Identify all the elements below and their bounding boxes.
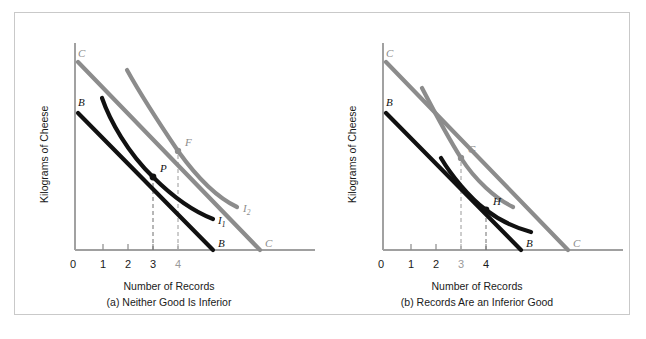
figure-root: F P C B C B I1 I2 0 1 — [0, 0, 646, 339]
x-tick-label-3-b: 3 — [458, 258, 464, 270]
curve-label-C-end-a: C — [265, 237, 273, 249]
panel-b: G H C B C B 0 1 2 3 4 Kilograms of Chees… — [323, 13, 631, 316]
curve-label-C-end-b: C — [573, 237, 581, 249]
x-axis-title-b: Number of Records — [431, 280, 522, 292]
indifference-curve-I2-a — [127, 70, 237, 207]
point-label-G: G — [468, 143, 476, 155]
budget-line-CC-b — [386, 62, 568, 250]
curve-label-C-top-a: C — [78, 47, 86, 59]
panel-a: F P C B C B I1 I2 0 1 — [15, 13, 323, 316]
y-axis-title-b: Kilograms of Cheese — [346, 105, 358, 203]
figure-frame: F P C B C B I1 I2 0 1 — [14, 12, 630, 315]
point-P-a — [150, 174, 157, 181]
x-tick-label-2-b: 2 — [433, 258, 439, 270]
curve-label-I2-sub: 2 — [247, 208, 251, 217]
curve-label-B-end-a: B — [218, 237, 225, 249]
y-axis-title-a: Kilograms of Cheese — [38, 105, 50, 203]
curve-label-B-end-b: B — [526, 237, 533, 249]
indifference-curve-I1-a — [102, 98, 213, 219]
x-tick-label-1-b: 1 — [408, 258, 414, 270]
budget-line-CC-a — [78, 62, 260, 250]
point-F-a — [175, 148, 181, 154]
x-tick-label-4-b: 4 — [483, 258, 489, 270]
x-tick-label-0-a: 0 — [70, 258, 76, 270]
x-tick-label-3-a: 3 — [150, 258, 156, 270]
point-label-P: P — [159, 162, 167, 174]
point-G-b — [458, 155, 464, 161]
curve-label-I2: I2 — [242, 202, 251, 217]
x-tick-label-2-a: 2 — [125, 258, 131, 270]
x-tick-label-1-a: 1 — [100, 258, 106, 270]
panel-caption-a: (a) Neither Good Is Inferior — [107, 296, 232, 308]
x-axis-title-a: Number of Records — [123, 280, 214, 292]
point-label-H: H — [492, 195, 502, 207]
curve-label-C-top-b: C — [386, 47, 394, 59]
point-H-b — [483, 207, 490, 214]
curve-label-I1-sub: 1 — [222, 220, 226, 229]
x-tick-label-0-b: 0 — [378, 258, 384, 270]
curve-label-I1: I1 — [217, 214, 225, 229]
curve-label-B-top-a: B — [78, 96, 85, 108]
panel-caption-b: (b) Records Are an Inferior Good — [401, 296, 553, 308]
x-tick-label-4-a: 4 — [175, 258, 181, 270]
point-label-F: F — [184, 136, 192, 148]
curve-label-B-top-b: B — [386, 96, 393, 108]
